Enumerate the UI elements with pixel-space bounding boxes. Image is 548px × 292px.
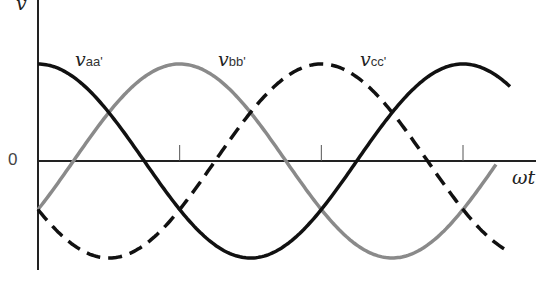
- x-axis-label: ωt: [512, 166, 535, 188]
- zero-label: 0: [8, 150, 17, 170]
- legend-vbb: vbb': [218, 48, 246, 70]
- legend-vaa: vaa': [75, 48, 103, 70]
- chart-canvas: [0, 0, 548, 292]
- y-axis-label: v: [16, 0, 27, 14]
- legend-vcc: vcc': [360, 48, 386, 70]
